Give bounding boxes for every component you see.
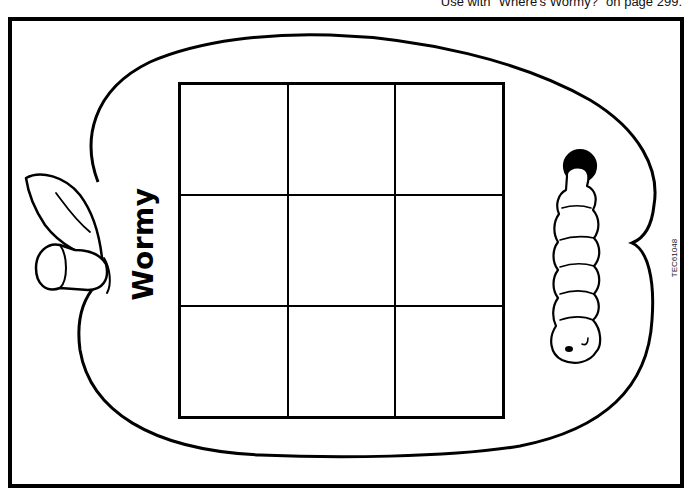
grid-cell-r3c1[interactable] xyxy=(180,306,288,417)
grid-cell-r3c3[interactable] xyxy=(395,306,503,417)
product-code: TEC61048 xyxy=(670,239,679,277)
grid-cell-r2c3[interactable] xyxy=(395,195,503,306)
grid-cell-r1c1[interactable] xyxy=(180,84,288,195)
grid-cell-r1c2[interactable] xyxy=(288,84,396,195)
tic-tac-toe-grid xyxy=(178,82,505,419)
grid-cell-r1c3[interactable] xyxy=(395,84,503,195)
grid-cell-r3c2[interactable] xyxy=(288,306,396,417)
board-title: Wormy xyxy=(127,188,160,301)
grid-cell-r2c2[interactable] xyxy=(288,195,396,306)
worm-icon xyxy=(551,150,600,363)
apple-stem-leaf-icon xyxy=(26,175,110,293)
grid-cell-r2c1[interactable] xyxy=(180,195,288,306)
